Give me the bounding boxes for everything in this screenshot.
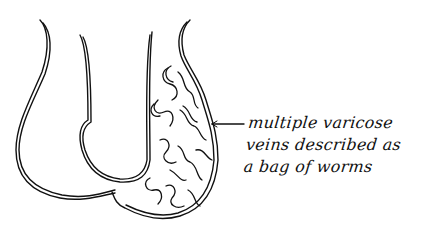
varicocele-bag-outline [112, 20, 218, 218]
varicose-veins [146, 66, 212, 207]
annotation-label: multiple varicose veins described as a b… [243, 112, 405, 178]
annotation-line-3: a bag of worms [243, 156, 400, 178]
annotation-line-2: veins described as [245, 134, 402, 156]
inner-fold-outline [80, 32, 152, 182]
figure-canvas: multiple varicose veins described as a b… [0, 0, 442, 235]
annotation-line-1: multiple varicose [247, 112, 404, 134]
